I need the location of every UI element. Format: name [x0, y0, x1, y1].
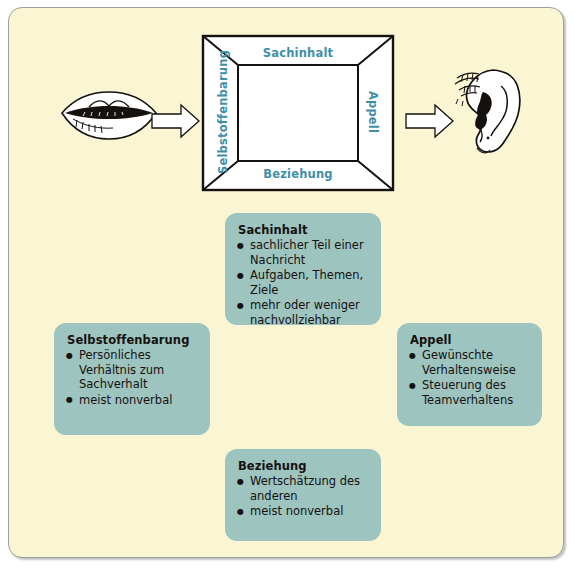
info-box-appell: Appell Gewünschte Verhaltensweise Steuer… — [397, 323, 542, 426]
info-box-title: Sachinhalt — [238, 223, 369, 237]
list-item: meist nonverbal — [237, 504, 369, 519]
list-item: Aufgaben, Themen, Ziele — [237, 268, 369, 297]
info-box-list: Wertschätzung des anderen meist nonverba… — [237, 474, 369, 519]
info-box-title: Selbstoffenbarung — [67, 333, 198, 347]
square-label-selbstoffenbarung: Selbstoffenbarung — [216, 42, 230, 182]
info-box-beziehung: Beziehung Wertschätzung des anderen meis… — [225, 449, 381, 541]
info-box-list: Persönliches Verhältnis zum Sachverhalt … — [66, 348, 198, 407]
list-item: Gewünschte Verhaltensweise — [409, 348, 530, 377]
ear-illustration — [449, 66, 527, 162]
info-box-selbstoffenbarung: Selbstoffenbarung Persönliches Verhältni… — [54, 323, 210, 435]
info-box-title: Beziehung — [238, 459, 369, 473]
square-label-appell: Appell — [366, 42, 380, 182]
list-item: Wertschätzung des anderen — [237, 474, 369, 503]
mouth-illustration — [59, 86, 159, 148]
list-item: meist nonverbal — [66, 393, 198, 408]
info-box-list: sachlicher Teil einer Nachricht Aufgaben… — [237, 238, 369, 327]
diagram-frame: Sachinhalt Beziehung Selbstoffenbarung A… — [8, 7, 564, 558]
arrow-right-icon — [151, 103, 201, 143]
list-item: mehr oder weniger nachvollziehbar — [237, 298, 369, 327]
list-item: sachlicher Teil einer Nachricht — [237, 238, 369, 267]
info-box-list: Gewünschte Verhaltensweise Steuerung des… — [409, 348, 530, 407]
list-item: Persönliches Verhältnis zum Sachverhalt — [66, 348, 198, 392]
info-box-sachinhalt: Sachinhalt sachlicher Teil einer Nachric… — [225, 213, 381, 325]
message-square: Sachinhalt Beziehung Selbstoffenbarung A… — [201, 34, 395, 192]
list-item: Steuerung des Teamverhaltens — [409, 378, 530, 407]
arrow-right-icon — [405, 103, 455, 143]
info-box-title: Appell — [410, 333, 530, 347]
